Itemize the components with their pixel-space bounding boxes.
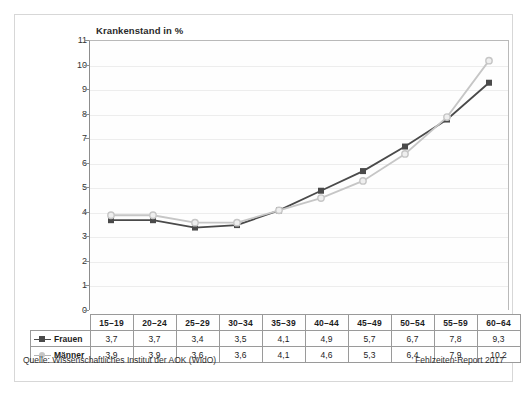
y-axis-tick-mark bbox=[84, 187, 89, 188]
data-point bbox=[318, 188, 324, 194]
y-axis-tick-label: 9 bbox=[57, 84, 87, 94]
data-point bbox=[192, 219, 198, 225]
column-header: 50–54 bbox=[391, 315, 434, 331]
series-line-frauen bbox=[111, 83, 489, 228]
table-cell: 6,7 bbox=[391, 331, 434, 347]
data-point bbox=[402, 151, 408, 157]
table-cell: 3,5 bbox=[219, 331, 262, 347]
table-corner bbox=[31, 315, 91, 331]
data-point bbox=[108, 212, 114, 218]
source-note: Quelle: Wissenschaftliches Institut der … bbox=[23, 355, 216, 365]
chart-title: Krankenstand in % bbox=[96, 25, 183, 36]
figure-panel: Krankenstand in % 01234567891011 15–1920… bbox=[14, 14, 513, 382]
y-axis-tick-mark bbox=[84, 212, 89, 213]
y-axis-tick-label: 6 bbox=[57, 158, 87, 168]
data-point bbox=[318, 195, 324, 201]
data-point bbox=[486, 80, 492, 86]
data-point bbox=[234, 219, 240, 225]
y-axis-tick-label: 4 bbox=[57, 207, 87, 217]
y-axis-tick-label: 5 bbox=[57, 182, 87, 192]
data-point bbox=[402, 144, 408, 150]
column-header: 40–44 bbox=[305, 315, 348, 331]
data-point bbox=[444, 114, 450, 120]
data-point bbox=[276, 207, 282, 213]
column-header: 45–49 bbox=[348, 315, 391, 331]
y-axis-tick-mark bbox=[84, 163, 89, 164]
plot-wrapper: 01234567891011 bbox=[74, 40, 509, 310]
plot-area bbox=[89, 40, 509, 310]
y-axis-tick-mark bbox=[84, 138, 89, 139]
y-axis-tick-label: 8 bbox=[57, 109, 87, 119]
series-lines bbox=[90, 41, 509, 310]
column-header: 15–19 bbox=[90, 315, 133, 331]
y-axis-tick-label: 11 bbox=[57, 35, 87, 45]
y-axis-tick-mark bbox=[84, 261, 89, 262]
table-cell: 5,7 bbox=[348, 331, 391, 347]
legend-label: Frauen bbox=[54, 334, 82, 344]
y-axis-tick-label: 2 bbox=[57, 256, 87, 266]
data-point bbox=[486, 57, 492, 63]
y-axis-tick-mark bbox=[84, 285, 89, 286]
table-cell: 4,9 bbox=[305, 331, 348, 347]
table-cell: 3,4 bbox=[176, 331, 219, 347]
footer: Quelle: Wissenschaftliches Institut der … bbox=[23, 355, 504, 365]
y-axis-tick-mark bbox=[84, 89, 89, 90]
report-note: Fehlzeiten-Report 2017 bbox=[415, 355, 504, 365]
column-header: 35–39 bbox=[262, 315, 305, 331]
data-point bbox=[360, 168, 366, 174]
column-header: 20–24 bbox=[133, 315, 176, 331]
y-axis-tick-mark bbox=[84, 310, 89, 311]
column-header: 30–34 bbox=[219, 315, 262, 331]
column-header: 60–64 bbox=[477, 315, 520, 331]
table-cell: 9,3 bbox=[477, 331, 520, 347]
y-axis-tick-mark bbox=[84, 236, 89, 237]
y-axis-tick-label: 10 bbox=[57, 60, 87, 70]
y-axis-tick-label: 1 bbox=[57, 280, 87, 290]
table-row: Frauen3,73,73,43,54,14,95,76,77,89,3 bbox=[31, 331, 521, 347]
column-header: 25–29 bbox=[176, 315, 219, 331]
table-cell: 4,1 bbox=[262, 331, 305, 347]
series-line-männer bbox=[111, 61, 489, 223]
column-header: 55–59 bbox=[434, 315, 477, 331]
table-cell: 3,7 bbox=[133, 331, 176, 347]
y-axis-tick-mark bbox=[84, 114, 89, 115]
legend-marker-icon bbox=[34, 336, 51, 343]
y-axis-tick-mark bbox=[84, 65, 89, 66]
legend-row-frauen: Frauen bbox=[31, 331, 91, 347]
y-axis-tick-label: 7 bbox=[57, 133, 87, 143]
data-point bbox=[150, 212, 156, 218]
y-axis-tick-mark bbox=[84, 40, 89, 41]
table-cell: 7,8 bbox=[434, 331, 477, 347]
data-point bbox=[360, 178, 366, 184]
table-header-row: 15–1920–2425–2930–3435–3940–4445–4950–54… bbox=[31, 315, 521, 331]
table-cell: 3,7 bbox=[90, 331, 133, 347]
y-axis-tick-label: 3 bbox=[57, 231, 87, 241]
